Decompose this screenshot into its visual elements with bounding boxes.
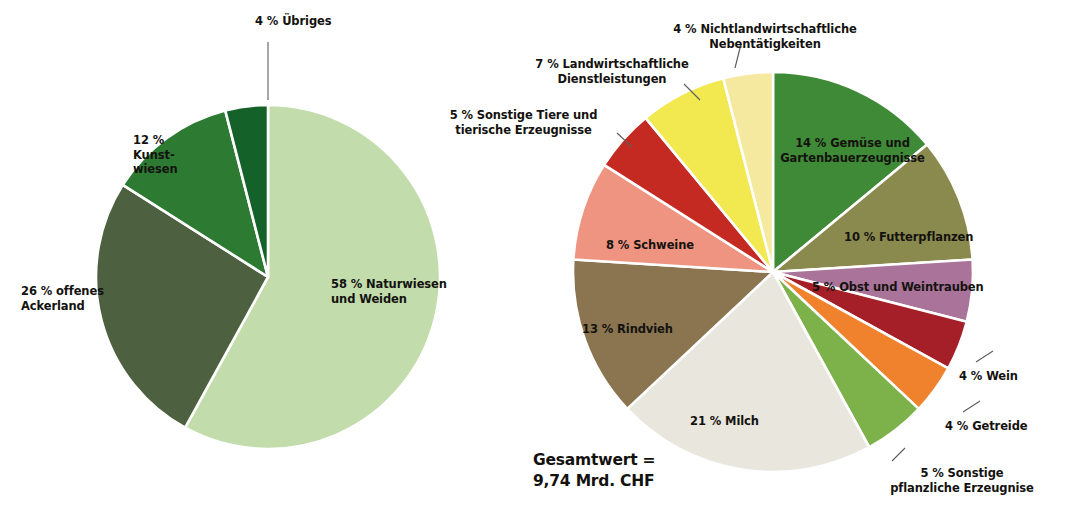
leader-line [963,401,980,412]
slice-label-naturwiesen-und-weiden: 58 % Naturwiesenund Weiden [331,277,447,306]
slice-label-uebriges: 4 % Übriges [255,14,332,29]
chart-canvas: 4 % Übriges 12 %Kunst-wiesen 26 % offene… [0,0,1087,520]
slice-label-kunstwiesen: 12 %Kunst-wiesen [133,133,178,177]
total-value-caption: Gesamtwert =9,74 Mrd. CHF [533,450,655,492]
slice-label-landwirtschaftliche-dienstleistungen: 7 % LandwirtschaftlicheDienstleistungen [508,57,716,86]
leader-line [892,448,905,461]
pie-chart-produktionswert-landwirtschaft [573,72,973,472]
leader-line [976,351,993,362]
slice-label-rindvieh: 13 % Rindvieh [582,322,673,337]
slice-label-schweine: 8 % Schweine [606,238,694,253]
slice-label-sonstige-tiere: 5 % Sonstige Tiere undtierische Erzeugni… [418,108,629,137]
slice-label-offenes-ackerland: 26 % offenesAckerland [21,284,104,313]
slice-label-futterpflanzen: 10 % Futterpflanzen [844,230,973,245]
slice-label-sonstige-pflanzliche: 5 % Sonstigepflanzliche Erzeugnise [855,466,1069,495]
slice-label-nichtlandwirtschaftliche-nebentaetigkeiten: 4 % NichtlandwirtschaftlicheNebentätigke… [640,22,890,51]
slice-label-wein: 4 % Wein [959,369,1018,384]
slice-label-milch: 21 % Milch [690,414,759,429]
slice-label-gemuese-gartenbau: 14 % Gemüse undGartenbauerzeugnisse [750,136,955,165]
slice-label-obst-und-weintrauben: 5 % Obst und Weintrauben [812,280,984,295]
slice-label-getreide: 4 % Getreide [945,419,1028,434]
